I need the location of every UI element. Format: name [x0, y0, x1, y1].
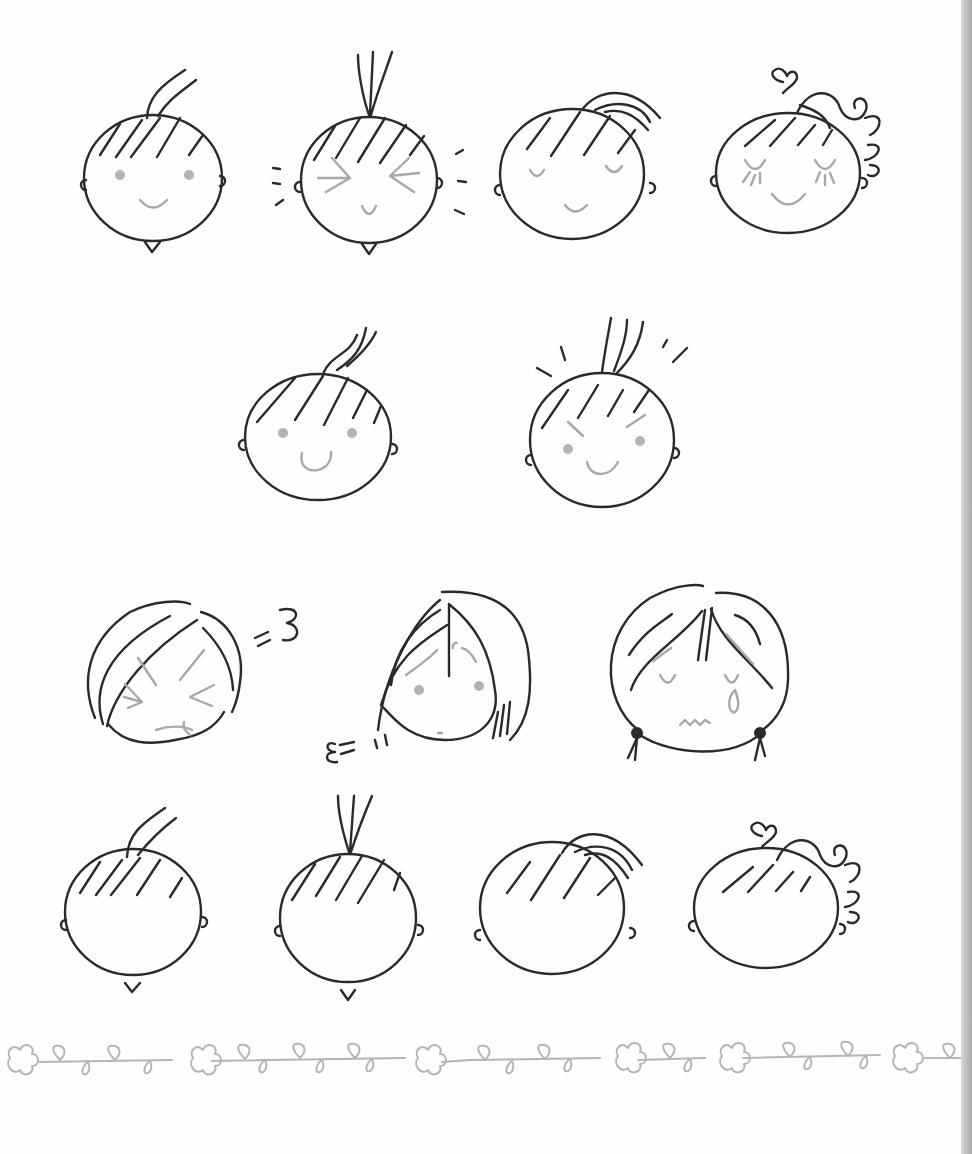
face-side-tuft-smile [81, 70, 225, 252]
face-curly-ponytail-heart-blank [689, 823, 860, 968]
face-bob-hair-angry [88, 602, 297, 743]
face-top-tuft-squint [273, 52, 466, 254]
face-ponytail-closed-eyes [495, 93, 660, 239]
face-side-tuft-blank [61, 808, 207, 992]
illustration-page [0, 0, 972, 1154]
face-curly-ponytail-heart-lashes [711, 69, 880, 233]
face-side-tuft-happy [239, 328, 397, 500]
face-bob-hair-worried [327, 592, 530, 762]
face-top-tuft-determined [526, 318, 687, 507]
page-edge-shadow [961, 0, 972, 1154]
face-ponytail-blank [475, 834, 642, 974]
face-top-tuft-blank [275, 796, 423, 1000]
faces-drawing [0, 0, 972, 1154]
face-pigtails-crying [611, 585, 788, 760]
vine-flower-border [8, 1042, 965, 1075]
